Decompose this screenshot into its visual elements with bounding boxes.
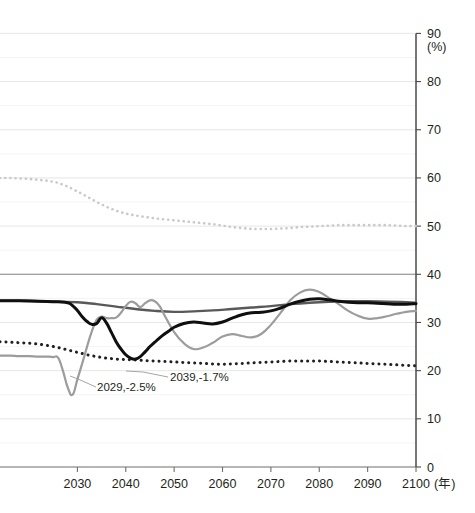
y-tick-label-60: 60: [427, 171, 441, 185]
y-axis-unit-label: (%): [427, 40, 446, 54]
y-tick-label-40: 40: [427, 268, 441, 282]
x-axis-unit-label: (年): [434, 477, 455, 491]
x-tick-label-2050: 2050: [160, 477, 188, 491]
annotation-label-0: 2029,-2.5%: [97, 381, 156, 393]
y-tick-label-30: 30: [427, 316, 441, 330]
chart-container: 0102030405060708090(%)203020402050206020…: [0, 0, 475, 513]
line-chart-plot: 0102030405060708090(%)203020402050206020…: [0, 0, 475, 513]
y-tick-label-20: 20: [427, 364, 441, 378]
x-tick-label-2100: 2100: [402, 477, 430, 491]
y-tick-label-0: 0: [427, 461, 434, 475]
x-tick-label-2040: 2040: [112, 477, 140, 491]
annotation-leader-1: [126, 371, 168, 377]
y-tick-label-70: 70: [427, 123, 441, 137]
y-tick-label-80: 80: [427, 75, 441, 89]
x-tick-label-2030: 2030: [63, 477, 91, 491]
x-tick-label-2090: 2090: [354, 477, 382, 491]
annotation-label-1: 2039,-1.7%: [170, 371, 229, 383]
x-tick-label-2080: 2080: [305, 477, 333, 491]
y-tick-label-10: 10: [427, 412, 441, 426]
x-tick-label-2070: 2070: [257, 477, 285, 491]
annotation-leader-0: [70, 376, 96, 387]
series-black-solid: [0, 299, 416, 359]
y-tick-label-90: 90: [427, 27, 441, 41]
y-tick-label-50: 50: [427, 220, 441, 234]
x-tick-label-2060: 2060: [209, 477, 237, 491]
series-light-gray-dotted-high: [0, 178, 416, 229]
